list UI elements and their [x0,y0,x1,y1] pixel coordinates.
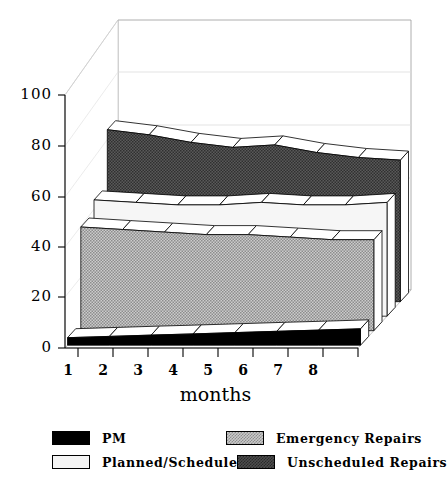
legend-label-planned-scheduled: Planned/Scheduled [102,455,247,470]
x-tick-label-1: 1 [58,362,78,378]
x-tick-label-5: 5 [198,362,218,378]
y-tick-label-20: 20 [0,287,52,305]
x-axis-title: months [0,383,431,405]
legend-swatch-pm-icon [52,431,90,445]
ribbon-emergency-repairs [81,218,382,331]
y-tick-label-0: 0 [0,338,52,356]
y-tick-label-40: 40 [0,237,52,255]
x-tick-label-8: 8 [303,362,323,378]
legend-label-pm: PM [102,431,126,446]
legend-entry-emergency-repairs[interactable]: Emergency Repairs [226,431,422,446]
data-ribbons [68,121,409,346]
x-tick-label-6: 6 [233,362,253,378]
legend-row-2: Planned/Scheduled Unscheduled Repairs [52,450,422,474]
x-tick-label-7: 7 [268,362,288,378]
x-tick-label-2: 2 [93,362,113,378]
legend-row-1: PM Emergency Repairs [52,426,422,450]
chart-legend: PM Emergency Repairs Planned/Scheduled U… [52,426,422,474]
legend-entry-planned-scheduled[interactable]: Planned/Scheduled [52,455,237,470]
legend-entry-unscheduled-repairs[interactable]: Unscheduled Repairs [237,455,447,470]
y-tick-label-100: 100 [0,85,52,103]
y-tick-label-60: 60 [0,187,52,205]
y-tick-label-80: 80 [0,136,52,154]
legend-entry-pm[interactable]: PM [52,431,226,446]
legend-swatch-planned-scheduled-icon [52,455,90,469]
legend-label-emergency-repairs: Emergency Repairs [276,431,422,446]
legend-swatch-unscheduled-repairs-icon [237,455,275,469]
legend-label-unscheduled-repairs: Unscheduled Repairs [287,455,447,470]
x-tick-label-3: 3 [128,362,148,378]
legend-swatch-emergency-repairs-icon [226,431,264,445]
x-tick-label-4: 4 [163,362,183,378]
